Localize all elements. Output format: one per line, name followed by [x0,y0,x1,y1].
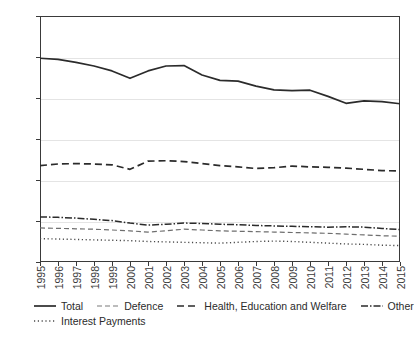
legend-item-other[interactable]: Other [361,300,414,312]
x-axis-tick-label: 2011 [323,266,335,289]
legend-item-label: Health, Education and Welfare [204,300,346,312]
x-axis-tick-label: 2009 [287,266,299,289]
x-axis-tick-label: 2006 [233,266,245,289]
legend-line-swatch-icon [34,301,56,311]
series-line-total [40,58,400,104]
x-axis-tick-label: 2004 [197,266,209,289]
legend-item-label: Other [388,300,414,312]
y-axis: 0%10%20%30%40%50%60% [0,0,40,300]
legend-line-swatch-icon [177,301,199,311]
x-axis-tick-label: 2010 [305,266,317,289]
legend-item-label: Total [61,300,83,312]
x-axis-tick-label: 2005 [215,266,227,289]
x-axis-tick-label: 2000 [125,266,137,289]
series-line-interest-payments [40,239,400,246]
legend-line-swatch-icon [97,301,119,311]
x-axis-tick-label: 1998 [89,266,101,289]
legend-item-defence[interactable]: Defence [97,300,163,312]
series-line-health-education-and-welfare [40,161,400,171]
legend-line-swatch-icon [361,301,383,311]
series-line-defence [40,228,400,236]
x-axis-tick-label: 2001 [143,266,155,289]
x-axis-tick-label: 2007 [251,266,263,289]
legend-item-health-education-and-welfare[interactable]: Health, Education and Welfare [177,300,346,312]
x-axis-tick-label: 2015 [395,266,407,289]
x-axis-tick-label: 1995 [35,266,47,289]
legend-item-label: Defence [124,300,163,312]
series-layer [40,16,400,262]
legend-item-interest-payments[interactable]: Interest Payments [34,315,146,327]
legend-line-swatch-icon [34,316,56,326]
x-axis-tick-label: 2012 [341,266,353,289]
x-axis-tick-label: 2003 [179,266,191,289]
series-line-other [40,217,400,230]
x-axis-tick-label: 2014 [377,266,389,289]
x-axis-tick-label: 1997 [71,266,83,289]
x-axis-tick-label: 2008 [269,266,281,289]
x-axis-tick-label: 1996 [53,266,65,289]
legend-row: Interest Payments [34,315,406,327]
legend-item-label: Interest Payments [61,315,146,327]
x-axis-tick-label: 1999 [107,266,119,289]
legend-item-total[interactable]: Total [34,300,83,312]
x-axis-tick-label: 2013 [359,266,371,289]
legend-row: TotalDefenceHealth, Education and Welfar… [34,300,406,312]
chart-legend: TotalDefenceHealth, Education and Welfar… [34,300,406,327]
x-axis-tick-label: 2002 [161,266,173,289]
